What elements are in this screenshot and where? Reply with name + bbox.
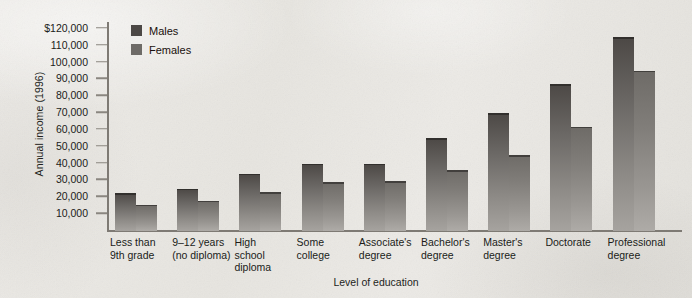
y-tick-mark	[96, 61, 107, 63]
bar-top-edge	[364, 164, 385, 166]
y-tick-label: 90,000	[30, 72, 88, 84]
bar-top-edge	[385, 181, 406, 183]
bar-top-edge	[613, 37, 634, 39]
bar-top-edge	[488, 113, 509, 115]
x-category-label: Less than 9th grade	[110, 236, 170, 261]
bar-females	[260, 192, 281, 231]
bar-females	[509, 155, 530, 231]
bar-males	[488, 113, 509, 231]
bar-top-edge	[302, 164, 323, 166]
bar-top-edge	[198, 201, 219, 203]
y-tick-label: 110,000	[30, 39, 88, 51]
y-tick-mark	[96, 94, 107, 96]
y-tick-mark	[96, 44, 107, 46]
y-tick-label: 60,000	[30, 123, 88, 135]
y-tick-mark	[96, 111, 107, 113]
x-category-label: Professional degree	[608, 236, 668, 261]
bar-males	[364, 164, 385, 231]
income-by-education-bar-chart: Annual income (1996) Level of education …	[0, 0, 692, 298]
y-tick-label: $120,000	[30, 22, 88, 34]
bar-top-edge	[323, 182, 344, 184]
y-tick-mark	[96, 128, 107, 130]
x-category-label: High school diploma	[234, 236, 294, 274]
x-category-label: Doctorate	[545, 236, 605, 249]
y-tick-mark	[96, 196, 107, 198]
bar-females	[571, 127, 592, 231]
bar-females	[447, 170, 468, 231]
y-tick-label: 80,000	[30, 89, 88, 101]
bar-top-edge	[239, 174, 260, 176]
y-axis-tick-labels: 10,00020,00030,00040,00050,00060,00070,0…	[30, 0, 88, 298]
y-tick-label: 100,000	[30, 56, 88, 68]
y-tick-label: 30,000	[30, 173, 88, 185]
x-category-label: Associate's degree	[359, 236, 419, 261]
bar-males	[302, 164, 323, 231]
y-tick-mark	[96, 27, 107, 29]
x-category-label: 9–12 years (no diploma)	[172, 236, 232, 261]
y-tick-mark	[96, 212, 107, 214]
y-tick-label: 70,000	[30, 106, 88, 118]
y-tick-label: 40,000	[30, 157, 88, 169]
bar-females	[323, 182, 344, 231]
x-category-label: Bachelor's degree	[421, 236, 481, 261]
y-tick-label: 20,000	[30, 190, 88, 202]
y-tick-mark	[96, 162, 107, 164]
bar-females	[634, 71, 655, 231]
bar-males	[239, 174, 260, 231]
bar-top-edge	[260, 192, 281, 194]
bar-males	[613, 37, 634, 231]
bar-top-edge	[509, 155, 530, 157]
bar-males	[550, 84, 571, 231]
bar-top-edge	[177, 189, 198, 191]
bar-top-edge	[426, 138, 447, 140]
y-tick-label: 10,000	[30, 207, 88, 219]
y-tick-mark	[96, 145, 107, 147]
bar-females	[198, 201, 219, 231]
bar-top-edge	[634, 71, 655, 73]
bar-top-edge	[136, 205, 157, 207]
bar-top-edge	[571, 127, 592, 129]
y-tick-label: 50,000	[30, 140, 88, 152]
bar-females	[385, 181, 406, 231]
y-tick-mark	[96, 78, 107, 80]
bar-males	[115, 193, 136, 231]
bar-males	[177, 189, 198, 231]
x-category-label: Some college	[297, 236, 357, 261]
x-category-label: Master's degree	[483, 236, 543, 261]
bar-top-edge	[447, 170, 468, 172]
bar-top-edge	[115, 193, 136, 195]
y-tick-mark	[96, 179, 107, 181]
bar-males	[426, 138, 447, 231]
bar-females	[136, 205, 157, 231]
bar-top-edge	[550, 84, 571, 86]
